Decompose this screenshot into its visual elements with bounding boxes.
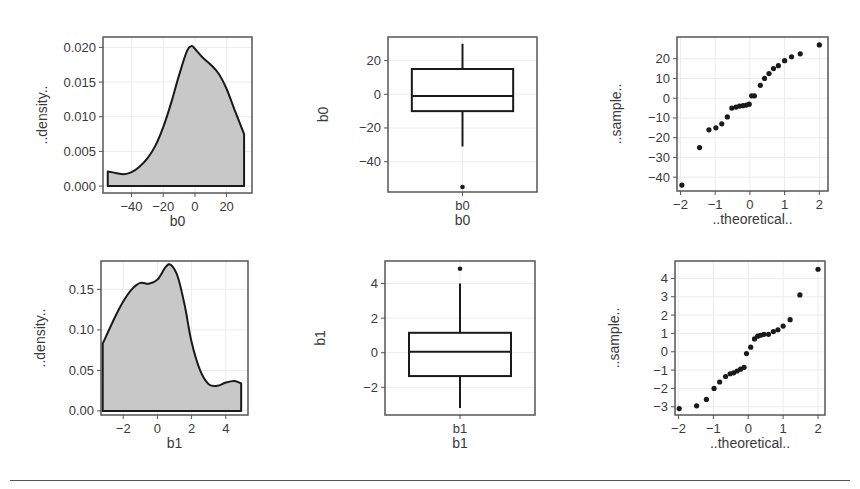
x-tick-label: −2	[116, 421, 131, 436]
y-tick-label: 20	[656, 51, 670, 66]
y-tick-label: −3	[653, 399, 668, 414]
x-tick-label: b1	[453, 421, 467, 436]
x-tick-label: b0	[455, 198, 469, 213]
x-tick-label: −2	[673, 197, 688, 212]
y-tick-label: 4	[661, 271, 668, 286]
y-tick-label: 0	[371, 345, 378, 360]
x-axis-label: b1	[167, 435, 183, 451]
x-tick-label: 0	[191, 199, 198, 214]
x-tick-label: −40	[121, 199, 143, 214]
y-tick-label: 20	[367, 53, 381, 68]
y-tick-label: 0.000	[63, 179, 96, 194]
y-tick-label: −20	[648, 130, 670, 145]
y-tick-label: 0.020	[63, 40, 96, 55]
y-axis-label: ..sample..	[606, 308, 622, 369]
figure-canvas: 0.0000.0050.0100.0150.020−40−20020b0..de…	[0, 0, 860, 489]
y-tick-label: −1	[653, 363, 668, 378]
y-axis-label: ..sample..	[608, 84, 624, 145]
y-axis-label: ..density..	[34, 86, 50, 145]
panel-b0_qq: −40−30−20−1001020−2−1012..theoretical...…	[608, 37, 828, 227]
panel-b0_density: 0.0000.0050.0100.0150.020−40−20020b0..de…	[34, 37, 252, 229]
x-axis-label: b0	[170, 213, 186, 229]
x-tick-label: −2	[671, 421, 686, 436]
bottom-rule	[10, 480, 850, 481]
x-axis-label: b1	[452, 435, 468, 451]
x-tick-label: 0	[746, 197, 753, 212]
y-tick-label: 0.05	[69, 363, 94, 378]
x-tick-label: 0	[154, 421, 161, 436]
y-tick-label: 3	[661, 289, 668, 304]
y-axis-label: b0	[315, 107, 331, 123]
y-tick-label: 4	[371, 276, 378, 291]
x-tick-label: −1	[708, 197, 723, 212]
x-tick-label: 20	[219, 199, 233, 214]
y-tick-label: −2	[653, 381, 668, 396]
x-axis-label: ..theoretical..	[710, 435, 790, 451]
x-tick-label: −1	[706, 421, 721, 436]
y-tick-label: −40	[648, 170, 670, 185]
panel-b1_boxplot: −2024b1b1b1	[312, 261, 535, 451]
x-axis-label: ..theoretical..	[712, 211, 792, 227]
panel-b1_density: 0.000.050.100.15−2024b1..density..	[32, 261, 248, 451]
y-tick-label: 2	[371, 311, 378, 326]
panel-b0_boxplot: −40−20020b0b0b0	[315, 37, 537, 228]
x-tick-label: −20	[152, 199, 174, 214]
y-axis-label: b1	[312, 330, 328, 346]
y-tick-label: 2	[661, 308, 668, 323]
y-tick-label: 10	[656, 71, 670, 86]
y-tick-label: 0.15	[69, 282, 94, 297]
x-tick-label: 1	[780, 421, 787, 436]
x-tick-label: 2	[814, 421, 821, 436]
y-tick-label: 0.015	[63, 75, 96, 90]
y-tick-label: 0	[374, 87, 381, 102]
y-tick-label: −2	[363, 380, 378, 395]
y-tick-label: −40	[359, 154, 381, 169]
y-axis-label: ..density..	[32, 309, 48, 368]
panel-b1_qq: −3−2−101234−2−1012..theoretical....sampl…	[606, 261, 825, 451]
x-tick-label: 1	[781, 197, 788, 212]
y-tick-label: 0	[663, 91, 670, 106]
y-tick-label: 1	[661, 326, 668, 341]
x-tick-label: 2	[188, 421, 195, 436]
y-tick-label: 0.10	[69, 322, 94, 337]
y-tick-label: 0.005	[63, 144, 96, 159]
y-tick-label: 0.010	[63, 109, 96, 124]
x-tick-label: 0	[745, 421, 752, 436]
y-tick-label: 0	[661, 344, 668, 359]
x-tick-label: 2	[816, 197, 823, 212]
outlier-point	[460, 185, 465, 190]
y-tick-label: 0.00	[69, 403, 94, 418]
y-tick-label: −20	[359, 120, 381, 135]
x-axis-label: b0	[455, 212, 471, 228]
y-tick-label: −30	[648, 150, 670, 165]
y-tick-label: −10	[648, 110, 670, 125]
outlier-point	[458, 266, 463, 271]
x-tick-label: 4	[222, 421, 229, 436]
